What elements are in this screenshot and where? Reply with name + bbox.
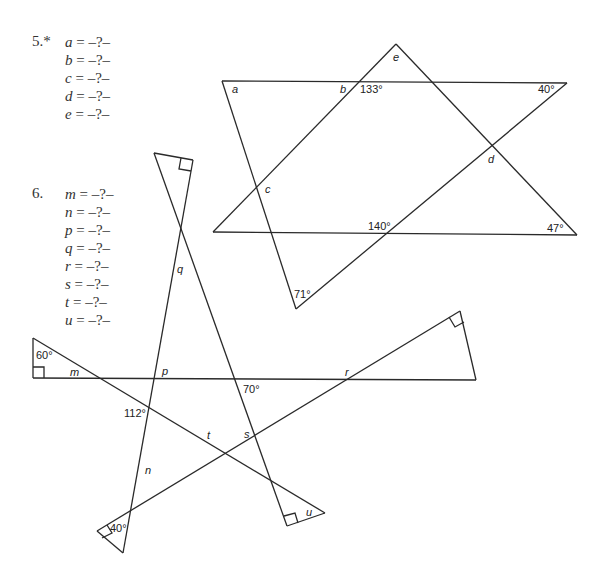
label-angle-60: 60° — [36, 349, 53, 361]
fig5-left-transversal — [222, 81, 296, 309]
fig6-line-m — [33, 338, 325, 513]
figure-5: a b 133° e 40° c d 140° 47° 71° — [213, 44, 577, 309]
label-n: n — [145, 464, 151, 476]
geometry-figures: a b 133° e 40° c d 140° 47° 71° — [0, 0, 607, 579]
label-angle-71: 71° — [294, 288, 311, 300]
label-q: q — [177, 263, 184, 275]
figure-6: 60° m p q 70° r 112° t s n 40° u — [33, 153, 476, 553]
label-angle-70: 70° — [243, 383, 260, 395]
label-s: s — [244, 428, 250, 440]
fig5-right-falling-line — [396, 44, 577, 235]
fig5-top-line — [222, 81, 567, 83]
label-p: p — [161, 365, 168, 377]
label-e: e — [393, 51, 399, 63]
worksheet: 5.* a = –?– b = –?– c = –?– d = –?– e = … — [0, 0, 607, 579]
fig6-right-edge — [460, 311, 476, 380]
label-angle-40-fig6: 40° — [110, 522, 127, 534]
fig6-line-r — [97, 311, 460, 531]
label-r: r — [345, 366, 350, 378]
label-angle-133: 133° — [360, 83, 383, 95]
label-u: u — [306, 506, 312, 518]
label-c: c — [265, 183, 271, 195]
right-angle-marker-bottom-right — [284, 513, 298, 523]
label-b: b — [340, 83, 346, 95]
label-angle-40-fig5: 40° — [538, 83, 555, 95]
label-angle-47: 47° — [547, 222, 564, 234]
label-a: a — [232, 83, 238, 95]
fig5-long-diagonal — [296, 83, 567, 309]
fig5-bottom-line — [213, 232, 577, 235]
fig6-line-s — [154, 153, 287, 526]
label-angle-112: 112° — [124, 407, 146, 419]
label-t: t — [207, 429, 211, 441]
right-angle-marker-left — [33, 367, 44, 378]
label-angle-140: 140° — [368, 220, 391, 232]
label-m: m — [70, 366, 79, 378]
label-d: d — [488, 153, 495, 165]
fig6-top-edge — [154, 153, 193, 160]
